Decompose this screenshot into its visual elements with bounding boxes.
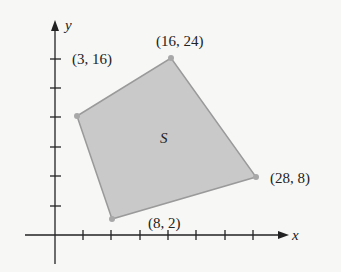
x-axis-arrow-icon [278, 231, 289, 239]
region-label: S [160, 130, 168, 146]
vertex-dot-16-24 [168, 55, 174, 61]
vertex-label-8-2: (8, 2) [148, 215, 181, 232]
y-axis-label: y [63, 17, 72, 33]
coordinate-plane: x y S (3, 16) (16, 24) (28, 8) (8, 2) [0, 0, 341, 272]
y-axis-arrow-icon [51, 20, 59, 31]
vertex-dot-3-16 [74, 113, 80, 119]
x-axis-label: x [291, 227, 299, 243]
diagram-canvas: x y S (3, 16) (16, 24) (28, 8) (8, 2) [0, 0, 341, 272]
vertex-label-3-16: (3, 16) [72, 51, 112, 68]
vertex-dot-28-8 [253, 174, 259, 180]
vertex-label-28-8: (28, 8) [270, 170, 310, 187]
vertex-label-16-24: (16, 24) [156, 33, 204, 50]
vertex-dot-8-2 [109, 216, 115, 222]
